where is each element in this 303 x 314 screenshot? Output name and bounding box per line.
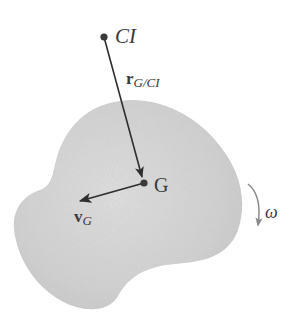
kinematics-diagram: CI rG/CI G vG ω — [0, 0, 303, 314]
ci-point — [100, 33, 107, 40]
omega-label: ω — [265, 202, 278, 222]
ci-label: CI — [115, 24, 137, 48]
rigid-body — [14, 100, 242, 309]
g-label: G — [154, 174, 168, 196]
omega-rotation-arrow-icon — [248, 184, 259, 225]
r-g-ci-label: rG/CI — [126, 69, 160, 90]
v-g-label-sub: G — [83, 213, 93, 228]
r-g-ci-label-sub: G/CI — [134, 75, 161, 90]
g-point — [140, 179, 147, 186]
